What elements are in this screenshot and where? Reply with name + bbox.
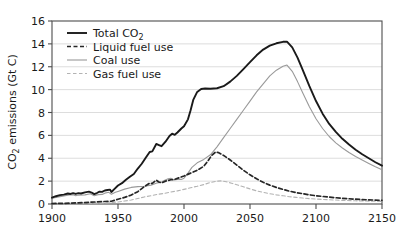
y-tick-label: 16	[31, 15, 45, 28]
y-tick-label: 2	[38, 175, 45, 188]
x-tick-label: 2050	[236, 212, 264, 225]
legend-label-prefix: Total CO	[92, 27, 139, 40]
x-axis-ticks	[52, 204, 382, 209]
y-tick-label: 12	[31, 61, 45, 74]
y-tick-label: 10	[31, 84, 45, 97]
series-line-liquid-fuel-use	[52, 152, 382, 204]
y-axis-title-prefix: CO	[6, 153, 19, 170]
co2-emissions-chart: 0246810121416 190019502000205021002150 C…	[0, 0, 414, 241]
y-axis-title: CO2 emissions (Gt C)	[6, 54, 21, 170]
x-tick-label: 1950	[104, 212, 132, 225]
y-tick-label: 8	[38, 107, 45, 120]
chart-legend: Total CO2Liquid fuel useCoal useGas fuel…	[67, 27, 174, 81]
y-tick-label: 4	[38, 152, 45, 165]
legend-label: Gas fuel use	[93, 68, 161, 81]
legend-label: Liquid fuel use	[93, 41, 174, 54]
x-tick-label: 2150	[368, 212, 396, 225]
y-axis-title-suffix: emissions (Gt C)	[6, 54, 19, 148]
y-tick-label: 6	[38, 129, 45, 142]
x-tick-label: 2000	[170, 212, 198, 225]
chart-canvas: 0246810121416 190019502000205021002150 C…	[0, 0, 414, 241]
y-axis-ticks	[48, 21, 52, 204]
svg-text:CO2 emissions (Gt C): CO2 emissions (Gt C)	[6, 54, 21, 170]
legend-label: Coal use	[93, 54, 140, 67]
y-axis-tick-labels: 0246810121416	[31, 15, 45, 211]
series-line-coal-use	[52, 65, 382, 198]
y-tick-label: 14	[31, 38, 45, 51]
y-tick-label: 0	[38, 198, 45, 211]
x-axis-tick-labels: 190019502000205021002150	[38, 212, 396, 225]
x-tick-label: 1900	[38, 212, 66, 225]
x-tick-label: 2100	[302, 212, 330, 225]
